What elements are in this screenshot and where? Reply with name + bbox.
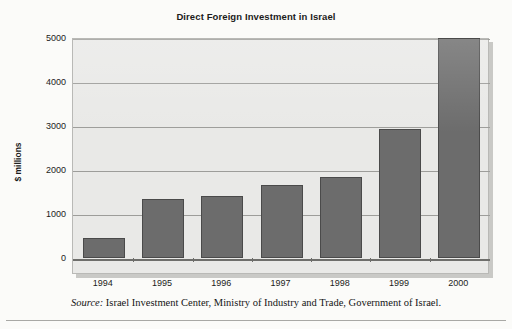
bars-layer bbox=[74, 40, 489, 274]
y-tick-label-5000: 5000 bbox=[26, 33, 66, 43]
x-tick-mark-5 bbox=[430, 258, 431, 262]
x-tick-label-1997: 1997 bbox=[251, 278, 311, 288]
y-axis-title: $ millions bbox=[13, 122, 23, 202]
x-tick-label-1995: 1995 bbox=[132, 278, 192, 288]
bar-1997[interactable] bbox=[261, 185, 303, 258]
source-text: Israel Investment Center, Ministry of In… bbox=[103, 297, 441, 308]
x-tick-mark-3 bbox=[311, 258, 312, 262]
y-tick-label-0: 0 bbox=[26, 253, 66, 263]
x-tick-mark-1 bbox=[193, 258, 194, 262]
y-tick-label-1000: 1000 bbox=[26, 209, 66, 219]
bar-1998[interactable] bbox=[320, 177, 362, 258]
plot-area bbox=[72, 38, 489, 274]
source-note: Source: Israel Investment Center, Minist… bbox=[0, 297, 512, 308]
source-label: Source: bbox=[71, 297, 103, 308]
bar-1995[interactable] bbox=[142, 199, 184, 258]
x-tick-label-1994: 1994 bbox=[73, 278, 133, 288]
bar-2000[interactable] bbox=[438, 38, 480, 258]
chart-figure: Direct Foreign Investment in Israel 0100… bbox=[0, 0, 512, 329]
y-axis-ticks: 010002000300040005000 bbox=[22, 38, 66, 274]
y-tick-label-4000: 4000 bbox=[26, 77, 66, 87]
x-tick-mark-4 bbox=[370, 258, 371, 262]
bar-1994[interactable] bbox=[83, 238, 125, 258]
x-tick-label-1996: 1996 bbox=[191, 278, 251, 288]
x-tick-mark-2 bbox=[252, 258, 253, 262]
x-tick-label-2000: 2000 bbox=[428, 278, 488, 288]
x-tick-label-1998: 1998 bbox=[310, 278, 370, 288]
x-tick-label-1999: 1999 bbox=[369, 278, 429, 288]
bar-1996[interactable] bbox=[201, 196, 243, 258]
bottom-divider bbox=[6, 320, 506, 321]
y-tick-label-2000: 2000 bbox=[26, 165, 66, 175]
y-tick-label-3000: 3000 bbox=[26, 121, 66, 131]
x-tick-mark-0 bbox=[133, 258, 134, 262]
bar-1999[interactable] bbox=[379, 129, 421, 258]
chart-title: Direct Foreign Investment in Israel bbox=[0, 11, 512, 22]
x-axis-ticks: 1994199519961997199819992000 bbox=[72, 278, 489, 294]
